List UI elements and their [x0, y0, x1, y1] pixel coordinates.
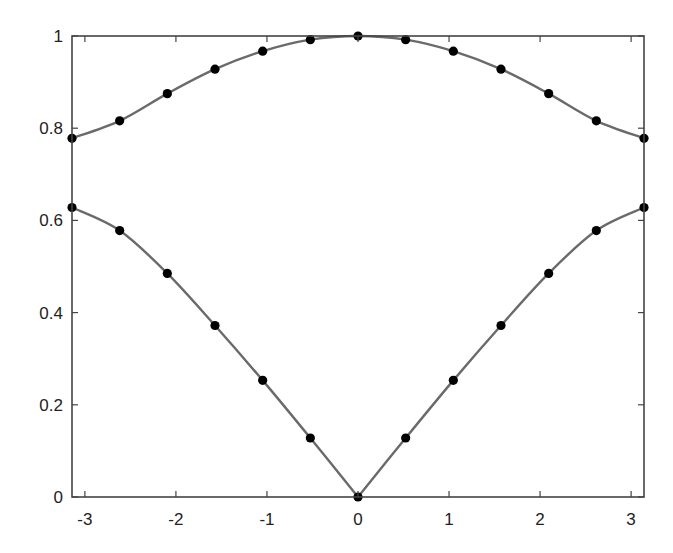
data-point-marker	[544, 89, 553, 98]
y-axis: 00.20.40.60.81	[39, 27, 644, 507]
y-tick-label: 0	[54, 488, 63, 507]
data-point-marker	[258, 47, 267, 56]
data-point-marker	[258, 376, 267, 385]
x-tick-label: -3	[77, 510, 92, 529]
chart-canvas: -3-2-10123 00.20.40.60.81	[0, 0, 673, 553]
x-tick-label: 2	[535, 510, 544, 529]
data-point-marker	[210, 65, 219, 74]
data-point-marker	[115, 226, 124, 235]
data-point-marker	[210, 321, 219, 330]
data-point-marker	[163, 269, 172, 278]
y-tick-label: 0.4	[39, 304, 63, 323]
data-point-marker	[592, 116, 601, 125]
x-tick-label: 3	[626, 510, 635, 529]
plot-area	[67, 31, 648, 501]
data-point-marker	[496, 321, 505, 330]
x-tick-label: -1	[259, 510, 274, 529]
data-point-marker	[544, 269, 553, 278]
x-axis: -3-2-10123	[77, 36, 636, 529]
y-tick-label: 0.8	[39, 119, 63, 138]
y-tick-label: 1	[54, 27, 63, 46]
x-tick-label: -2	[168, 510, 183, 529]
data-point-marker	[306, 433, 315, 442]
data-point-marker	[163, 89, 172, 98]
series-line-upper	[72, 36, 644, 138]
y-tick-label: 0.2	[39, 396, 63, 415]
data-point-marker	[401, 433, 410, 442]
series-line-lower	[72, 207, 644, 497]
data-point-marker	[449, 376, 458, 385]
data-point-marker	[115, 116, 124, 125]
x-tick-label: 0	[353, 510, 362, 529]
data-point-marker	[449, 47, 458, 56]
data-point-marker	[496, 65, 505, 74]
x-tick-label: 1	[444, 510, 453, 529]
data-point-marker	[592, 226, 601, 235]
y-tick-label: 0.6	[39, 211, 63, 230]
axes-box	[72, 36, 644, 497]
